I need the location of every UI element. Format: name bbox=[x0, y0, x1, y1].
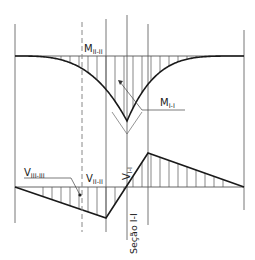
m-i-leader bbox=[120, 82, 185, 110]
shear-diagram bbox=[15, 153, 244, 218]
vertical-lines bbox=[15, 15, 244, 240]
label-v-ii-ii: VII-II bbox=[86, 173, 103, 186]
label-v-i-i: VI-I bbox=[121, 167, 134, 180]
v-iii-dot bbox=[78, 193, 81, 196]
moment-curve bbox=[15, 56, 244, 121]
shear-hatching bbox=[43, 154, 223, 218]
arrowhead-icon bbox=[118, 80, 123, 85]
diagram-canvas: MII-II MI-I VIII-III VII-II VI-I Seção I… bbox=[0, 0, 255, 260]
shear-line bbox=[15, 153, 244, 218]
label-m-ii-ii: MII-II bbox=[84, 43, 103, 56]
moment-diagram bbox=[15, 56, 244, 134]
label-m-i-i: MI-I bbox=[160, 97, 175, 110]
moment-hatching bbox=[61, 56, 196, 116]
label-section-i-i: Seção I-I bbox=[128, 213, 139, 254]
label-v-iii-iii: VIII-III bbox=[24, 167, 45, 180]
